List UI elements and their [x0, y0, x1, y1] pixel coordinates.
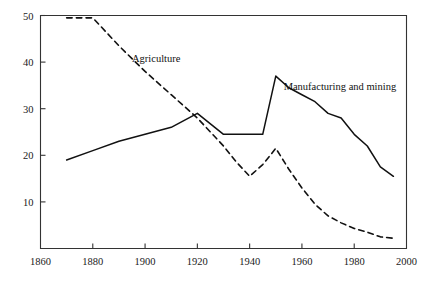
x-tick-label: 1860 [30, 256, 51, 267]
axis-ticks [41, 16, 355, 249]
y-tick-label: 50 [23, 11, 34, 22]
y-tick-label: 10 [23, 197, 34, 208]
x-tick-label: 1940 [239, 256, 260, 267]
x-tick-label: 1900 [135, 256, 156, 267]
y-tick-label: 20 [23, 150, 34, 161]
series-label-agriculture: Agriculture [132, 53, 181, 64]
series-line-agriculture [67, 18, 394, 238]
y-tick-label: 40 [23, 57, 34, 68]
x-tick-label: 1880 [82, 256, 103, 267]
x-tick-label: 1920 [187, 256, 208, 267]
y-tick-label: 30 [23, 104, 34, 115]
x-tick-label: 1960 [291, 256, 312, 267]
series-label-manufacturing-and-mining: Manufacturing and mining [284, 81, 397, 92]
line-chart: 1860188019001920194019601980200010203040… [0, 0, 426, 284]
x-tick-label: 1980 [344, 256, 365, 267]
x-tick-label: 2000 [396, 256, 417, 267]
data-series [67, 18, 394, 238]
series-annotations: AgricultureManufacturing and mining [132, 53, 397, 92]
chart-container: 1860188019001920194019601980200010203040… [0, 0, 426, 284]
